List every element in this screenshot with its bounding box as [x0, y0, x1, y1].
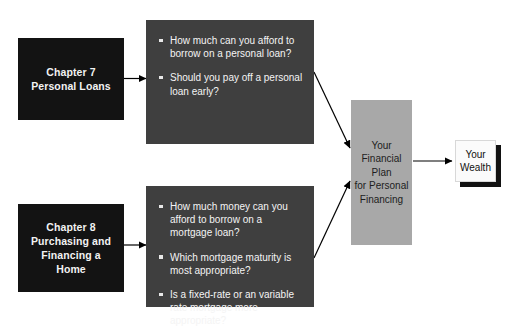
plan-line-2: Financial Plan: [351, 152, 412, 179]
question-text: Is a fixed-rate or an variable rate mort…: [170, 289, 294, 326]
arrow-bottom-questions-to-plan: [314, 181, 350, 258]
chapter-7-line-2: Personal Loans: [31, 79, 111, 93]
question-text: How much can you afford to borrow on a p…: [170, 35, 294, 59]
bullet-square-icon: [159, 76, 163, 80]
list-item: How much can you afford to borrow on a p…: [159, 34, 304, 60]
bullet-square-icon: [159, 293, 163, 297]
question-text: Which mortgage maturity is most appropri…: [170, 252, 291, 276]
list-item: Which mortgage maturity is most appropri…: [159, 251, 304, 277]
plan-line-4: Financing: [351, 193, 412, 207]
mortgage-questions-box[interactable]: How much money can you afford to borrow …: [146, 186, 314, 307]
chapter-8-box[interactable]: Chapter 8 Purchasing and Financing a Hom…: [18, 204, 124, 292]
your-wealth-box[interactable]: Your Wealth: [455, 140, 496, 182]
chapter-8-line-4: Home: [31, 262, 111, 276]
bullet-square-icon: [159, 39, 163, 43]
bullet-square-icon: [159, 255, 163, 259]
bullet-square-icon: [159, 205, 163, 209]
chapter-8-line-2: Purchasing and: [31, 234, 111, 248]
chapter-7-line-1: Chapter 7: [31, 65, 111, 79]
arrow-top-questions-to-plan: [314, 72, 350, 148]
question-text: How much money can you afford to borrow …: [170, 201, 288, 238]
chapter-8-line-1: Chapter 8: [31, 220, 111, 234]
personal-loan-questions-box[interactable]: How much can you afford to borrow on a p…: [146, 20, 314, 144]
plan-line-1: Your: [351, 139, 412, 153]
wealth-line-1: Your: [460, 148, 491, 161]
personal-loan-questions-list: How much can you afford to borrow on a p…: [159, 34, 304, 98]
mortgage-questions-list: How much money can you afford to borrow …: [159, 200, 304, 326]
chapter-7-box[interactable]: Chapter 7 Personal Loans: [18, 38, 124, 120]
list-item: Should you pay off a personal loan early…: [159, 71, 304, 97]
list-item: Is a fixed-rate or an variable rate mort…: [159, 288, 304, 326]
wealth-line-2: Wealth: [460, 161, 491, 174]
chapter-8-line-3: Financing a: [31, 248, 111, 262]
financial-plan-box[interactable]: Your Financial Plan for Personal Financi…: [351, 100, 412, 245]
list-item: How much money can you afford to borrow …: [159, 200, 304, 240]
diagram-canvas: Chapter 7 Personal Loans How much can yo…: [0, 0, 529, 326]
plan-line-3: for Personal: [351, 179, 412, 193]
question-text: Should you pay off a personal loan early…: [170, 72, 302, 96]
